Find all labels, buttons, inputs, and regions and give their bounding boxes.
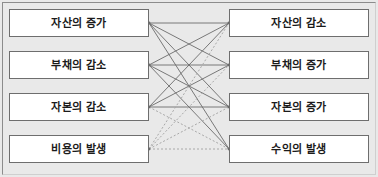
node-label: 자산의 증가 <box>51 18 106 29</box>
node-asset-increase[interactable]: 자산의 증가 <box>9 9 149 37</box>
node-label: 수익의 발생 <box>271 144 326 155</box>
node-label: 부채의 증가 <box>271 60 326 71</box>
node-revenue-occur[interactable]: 수익의 발생 <box>229 135 369 163</box>
node-capital-increase[interactable]: 자본의 증가 <box>229 93 369 121</box>
node-label: 자본의 감소 <box>51 102 106 113</box>
node-label: 자본의 증가 <box>271 102 326 113</box>
node-label: 자산의 감소 <box>271 18 326 29</box>
node-liability-increase[interactable]: 부채의 증가 <box>229 51 369 79</box>
node-asset-decrease[interactable]: 자산의 감소 <box>229 9 369 37</box>
node-capital-decrease[interactable]: 자본의 감소 <box>9 93 149 121</box>
transaction-elements-diagram: 자산의 증가 부채의 감소 자본의 감소 비용의 발생 자산의 감소 부채의 증… <box>0 0 378 177</box>
node-liability-decrease[interactable]: 부채의 감소 <box>9 51 149 79</box>
node-label: 부채의 감소 <box>51 60 106 71</box>
node-expense-occur[interactable]: 비용의 발생 <box>9 135 149 163</box>
node-label: 비용의 발생 <box>51 144 106 155</box>
